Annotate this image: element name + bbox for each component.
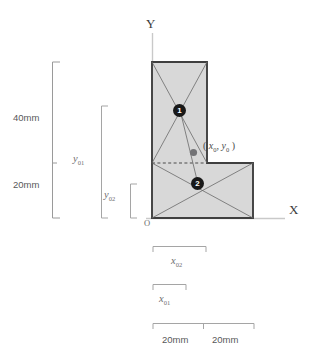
- y01-subscript: 01: [78, 159, 85, 166]
- x-axis-label: X: [289, 203, 298, 216]
- y-axis-label: Y: [146, 17, 155, 30]
- centroid-coordinate-label: ( x0, y0 ): [203, 141, 235, 151]
- x01-subscript: 01: [164, 299, 171, 306]
- coord-close-paren: ): [229, 140, 235, 151]
- diagram-graphics: [0, 0, 312, 352]
- part-badge-2: 2: [191, 177, 204, 190]
- dim-label-x02: x02: [171, 256, 182, 267]
- dim-label-20mm-right: 20mm: [212, 335, 238, 345]
- dim-label-20mm-left: 20mm: [162, 335, 188, 345]
- dim-bracket-x02: [153, 247, 206, 253]
- x02-subscript: 02: [176, 261, 183, 268]
- part-badge-1: 1: [173, 104, 186, 117]
- dim-label-x01: x01: [159, 294, 170, 305]
- diagram-canvas: Y X O 1 2 ( x0, y0 ) 40mm 20mm y01 y02 x…: [0, 0, 312, 352]
- dim-label-y02: y02: [104, 190, 115, 201]
- dim-label-20mm-vertical: 20mm: [13, 180, 39, 190]
- dim-label-40mm: 40mm: [13, 113, 39, 123]
- dim-bracket-x01: [153, 285, 186, 291]
- composite-centroid-dot: [190, 149, 197, 156]
- dim-label-y01: y01: [73, 154, 84, 165]
- dim-bracket-y01: [102, 106, 109, 218]
- dim-bracket-y02: [131, 184, 138, 218]
- dim-bracket-widths: [153, 324, 254, 330]
- origin-label: O: [144, 219, 150, 228]
- y02-subscript: 02: [109, 195, 116, 202]
- dim-bracket-total-height: [53, 62, 61, 218]
